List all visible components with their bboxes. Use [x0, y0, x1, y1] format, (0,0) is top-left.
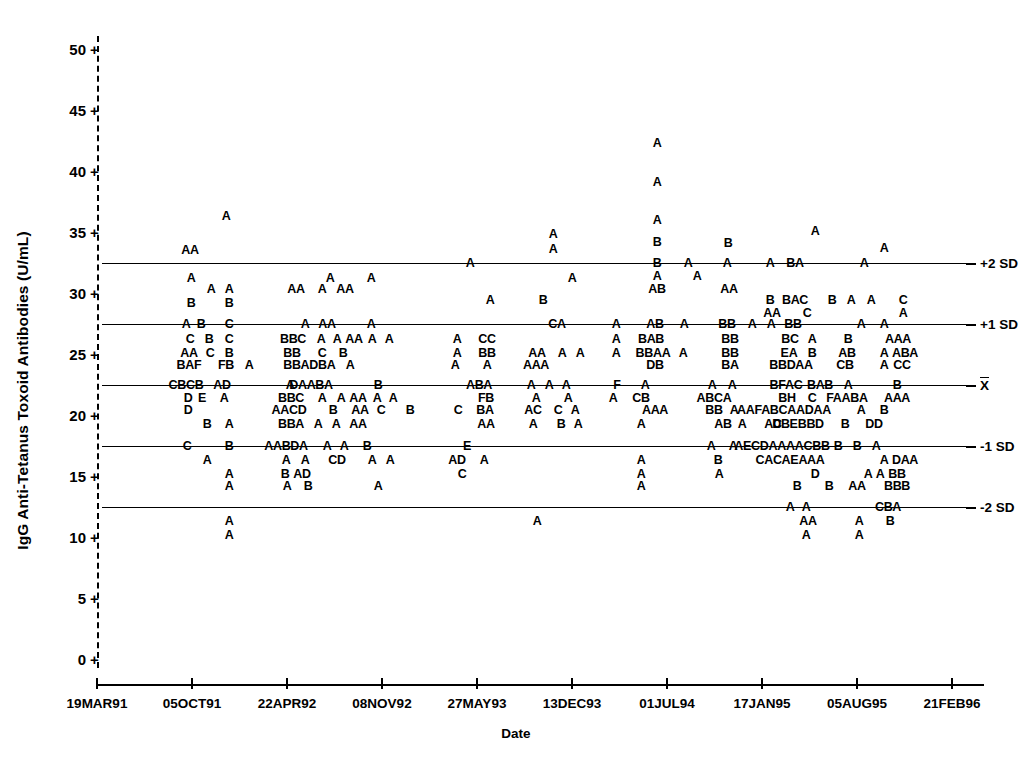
- data-point-marker: B: [793, 480, 802, 493]
- data-point-marker: A: [207, 283, 216, 296]
- data-point-marker: A: [225, 528, 234, 541]
- data-point-marker: A: [808, 333, 817, 346]
- data-point-marker: A: [453, 333, 462, 346]
- data-point-marker: CC: [478, 333, 495, 346]
- data-point-marker: B: [653, 256, 662, 269]
- data-point-marker: B: [374, 378, 383, 391]
- x-tick-label: 27MAY93: [448, 696, 507, 711]
- data-point-marker: A: [549, 228, 558, 241]
- data-point-marker: A: [245, 359, 254, 372]
- data-point-marker: A: [738, 417, 747, 430]
- data-point-marker: AA: [336, 283, 353, 296]
- data-point-marker: DAABA: [289, 378, 333, 391]
- data-point-marker: BAB: [807, 378, 833, 391]
- data-point-marker: CB: [836, 359, 853, 372]
- data-point-marker: D: [184, 404, 193, 417]
- y-tick-label: 15: [56, 469, 86, 484]
- data-point-marker: B: [363, 439, 372, 452]
- data-point-marker: A: [326, 272, 335, 285]
- x-tick-label: 01JUL94: [639, 696, 695, 711]
- data-point-marker: AA: [181, 244, 198, 257]
- data-point-marker: AB: [648, 283, 665, 296]
- data-point-marker: BAB: [638, 333, 664, 346]
- x-tick-label: 13DEC93: [543, 696, 602, 711]
- data-point-marker: A: [609, 392, 618, 405]
- data-point-marker: A: [314, 417, 323, 430]
- x-tick-mark: [951, 678, 953, 689]
- data-point-marker: DB: [646, 359, 663, 372]
- data-point-marker: A: [367, 317, 376, 330]
- data-point-marker: A: [323, 439, 332, 452]
- data-point-marker: C: [225, 333, 234, 346]
- data-point-marker: A: [187, 272, 196, 285]
- data-point-marker: A: [333, 333, 342, 346]
- data-point-marker: DD: [865, 417, 882, 430]
- data-point-marker: AAA: [642, 404, 668, 417]
- data-point-marker: A: [346, 359, 355, 372]
- data-point-marker: AAA: [523, 359, 549, 372]
- data-point-marker: B: [828, 294, 837, 307]
- x-tick-label: 08NOV92: [352, 696, 411, 711]
- data-point-marker: B: [539, 294, 548, 307]
- data-point-marker: B: [714, 454, 723, 467]
- data-point-marker: AB: [714, 417, 731, 430]
- data-point-marker: A: [486, 294, 495, 307]
- data-point-marker: A: [847, 294, 856, 307]
- data-point-marker: A: [282, 454, 291, 467]
- data-point-marker: AACD: [272, 404, 307, 417]
- data-point-marker: A: [786, 500, 795, 513]
- data-point-marker: A: [222, 210, 231, 223]
- data-point-marker: B: [225, 297, 234, 310]
- x-tick-label: 19MAR91: [67, 696, 128, 711]
- data-point-marker: A: [386, 454, 395, 467]
- data-point-marker: A: [558, 347, 567, 360]
- data-point-marker: A: [483, 359, 492, 372]
- data-point-marker: AA: [287, 283, 304, 296]
- control-limit-tick: [966, 324, 976, 326]
- data-point-marker: AA: [720, 283, 737, 296]
- data-point-marker: C: [454, 404, 463, 417]
- data-point-marker: BBA: [278, 417, 304, 430]
- data-point-marker: A: [225, 480, 234, 493]
- y-tick-label: 35: [56, 225, 86, 240]
- y-tick-mark: +: [90, 164, 99, 179]
- data-point-marker: B: [844, 333, 853, 346]
- data-point-marker: A: [766, 256, 775, 269]
- data-point-marker: B: [853, 439, 862, 452]
- data-point-marker: A: [571, 404, 580, 417]
- y-tick-label: 0: [56, 652, 86, 667]
- data-point-marker: AD: [448, 454, 465, 467]
- data-point-marker: B: [841, 417, 850, 430]
- control-limit-line: [102, 507, 972, 508]
- data-point-marker: AA: [799, 515, 816, 528]
- data-point-marker: BB: [718, 317, 735, 330]
- x-tick-mark: [666, 678, 668, 689]
- data-point-marker: A: [684, 256, 693, 269]
- y-tick-label: 25: [56, 347, 86, 362]
- data-point-marker: A: [748, 317, 757, 330]
- data-point-marker: DAA: [892, 454, 918, 467]
- control-limit-label: -1 SD: [980, 438, 1015, 453]
- data-point-marker: BAF: [177, 359, 202, 372]
- data-point-marker: CA: [548, 317, 565, 330]
- data-point-marker: A: [318, 283, 327, 296]
- data-point-marker: B: [203, 417, 212, 430]
- data-point-marker: B: [834, 439, 843, 452]
- data-point-marker: AA: [318, 317, 335, 330]
- x-tick-mark: [286, 678, 288, 689]
- data-point-marker: A: [529, 417, 538, 430]
- y-tick-mark: +: [90, 591, 99, 606]
- data-point-marker: A: [855, 515, 864, 528]
- data-point-marker: A: [225, 515, 234, 528]
- data-point-marker: E: [463, 439, 471, 452]
- y-axis-title: IgG Anti-Tetanus Toxoid Antibodies (U/mL…: [0, 0, 46, 781]
- control-limit-label: +2 SD: [980, 255, 1018, 270]
- data-point-marker: F: [613, 378, 620, 391]
- x-tick-mark: [191, 678, 193, 689]
- data-point-marker: A: [368, 333, 377, 346]
- data-point-marker: A: [317, 333, 326, 346]
- y-tick-label: 40: [56, 164, 86, 179]
- data-point-marker: A: [332, 417, 341, 430]
- data-point-marker: A: [637, 454, 646, 467]
- y-tick-label: 5: [56, 591, 86, 606]
